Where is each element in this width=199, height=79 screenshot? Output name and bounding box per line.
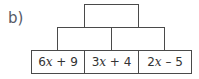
expression-constant: + 4 xyxy=(106,55,131,69)
expression-variable: x xyxy=(155,55,162,69)
question-label: b) xyxy=(8,9,23,27)
pyramid-middle-brick-right[interactable] xyxy=(111,27,165,51)
expression-variable: x xyxy=(46,55,53,69)
pyramid-bottom-brick-2: 3x + 4 xyxy=(84,50,139,74)
pyramid-bottom-brick-3: 2x – 5 xyxy=(138,50,192,74)
pyramid-top-brick[interactable] xyxy=(84,4,139,28)
pyramid-bottom-brick-1: 6x + 9 xyxy=(31,50,85,74)
expression-constant: – 5 xyxy=(162,55,183,69)
expression-constant: + 9 xyxy=(53,55,78,69)
expression-coefficient: 6 xyxy=(38,55,46,69)
expression-coefficient: 3 xyxy=(92,55,100,69)
pyramid-middle-brick-left[interactable] xyxy=(57,27,112,51)
expression-variable: x xyxy=(99,55,106,69)
expression-coefficient: 2 xyxy=(147,55,155,69)
